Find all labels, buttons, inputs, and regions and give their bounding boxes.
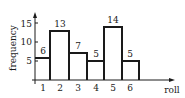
y-tick-label: 10 bbox=[21, 37, 33, 47]
bar-value-label: 13 bbox=[54, 19, 66, 29]
x-axis-title: roll bbox=[164, 85, 180, 95]
histogram-chart: 5 10 15 frequency 6 13 7 5 14 5 1 2 3 4 … bbox=[0, 0, 185, 98]
bar-value-label: 6 bbox=[40, 46, 46, 56]
y-axis-arrow-icon bbox=[33, 12, 37, 18]
y-axis-title: frequency bbox=[8, 24, 18, 71]
x-tick-label: 3 bbox=[75, 83, 81, 93]
x-tick-label: 2 bbox=[57, 83, 63, 93]
x-tick-label: 6 bbox=[127, 83, 133, 93]
x-tick-label: 1 bbox=[40, 83, 46, 93]
bar-value-label: 5 bbox=[93, 49, 99, 59]
x-tick-labels: 1 2 3 4 5 6 bbox=[40, 83, 133, 93]
x-tick-label: 4 bbox=[93, 83, 99, 93]
x-axis-arrow-icon bbox=[169, 78, 175, 82]
y-tick-label: 15 bbox=[21, 19, 33, 29]
bar-value-label: 14 bbox=[107, 15, 119, 25]
x-tick-label: 5 bbox=[110, 83, 116, 93]
bar-value-label: 5 bbox=[127, 49, 133, 59]
histogram-outline bbox=[35, 27, 139, 80]
y-tick-label: 5 bbox=[26, 56, 32, 66]
bar-value-label: 7 bbox=[75, 41, 81, 51]
